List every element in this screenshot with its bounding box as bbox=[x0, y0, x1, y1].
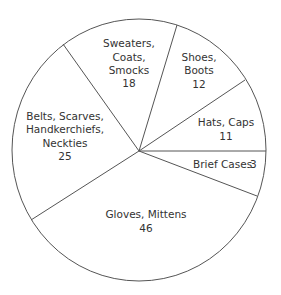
label-line: Gloves, Mittens bbox=[105, 208, 186, 220]
slice-value: 25 bbox=[58, 150, 71, 162]
slice-value: 46 bbox=[139, 222, 153, 234]
slice-value: 3 bbox=[250, 158, 257, 170]
label-line: Coats, bbox=[112, 51, 145, 63]
label-line: Brief Cases bbox=[193, 158, 252, 170]
label-line: Shoes, bbox=[181, 51, 216, 63]
pie-chart: Sweaters, Coats, Smocks 18 Shoes, Boots … bbox=[0, 0, 281, 295]
slice-value: 12 bbox=[192, 78, 205, 90]
label-line: Hats, Caps bbox=[198, 116, 255, 128]
label-line: Sweaters, bbox=[103, 37, 155, 49]
slice-value: 18 bbox=[122, 77, 135, 89]
label-line: Smocks bbox=[109, 64, 150, 76]
label-line: Belts, Scarves, bbox=[26, 110, 104, 122]
label-line: Handkerchiefs, bbox=[26, 123, 104, 135]
label-line: Boots bbox=[184, 64, 214, 76]
slice-label-briefcases: Brief Cases 3 bbox=[193, 158, 257, 170]
slice-value: 11 bbox=[219, 130, 232, 142]
label-line: Neckties bbox=[42, 137, 87, 149]
